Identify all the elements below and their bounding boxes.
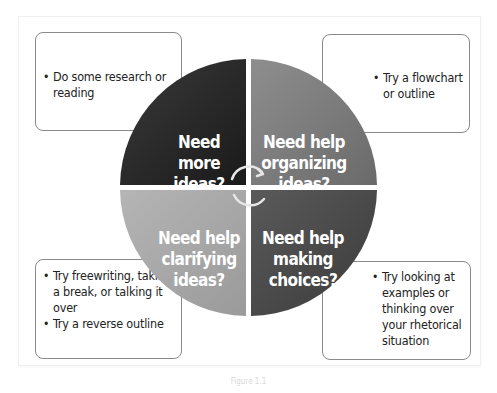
quadrant-label-making-choices: Need help making choices?	[248, 228, 358, 291]
tip-item: Try looking at examples or thinking over…	[372, 269, 470, 349]
figure-caption: Figure 1.1	[0, 377, 497, 386]
quadrant-label-clarifying-ideas: Need help clarifying ideas?	[144, 228, 254, 291]
tip-item: Try a reverse outline	[43, 316, 178, 332]
label-line: Need help	[249, 132, 359, 153]
tip-list: Try looking at examples or thinking over…	[372, 269, 470, 349]
label-line: clarifying	[144, 249, 254, 270]
label-line: Need help	[144, 228, 254, 249]
quadrant-label-organizing-ideas: Need help organizing ideas?	[249, 132, 359, 195]
label-line: Need help	[248, 228, 358, 249]
tip-list: Try a flowchart or outline	[373, 70, 468, 102]
label-line: Need	[144, 132, 254, 153]
label-line: ideas?	[249, 174, 359, 195]
label-line: ideas?	[144, 270, 254, 291]
label-line: choices?	[248, 270, 358, 291]
tip-item: Try a flowchart or outline	[373, 70, 468, 102]
label-line: ideas?	[144, 174, 254, 195]
quadrant-label-more-ideas: Need more ideas?	[144, 132, 254, 195]
label-line: organizing	[249, 153, 359, 174]
label-line: making	[248, 249, 358, 270]
question-wheel: Need more ideas? Need help organizing id…	[120, 59, 377, 316]
label-line: more	[144, 153, 254, 174]
